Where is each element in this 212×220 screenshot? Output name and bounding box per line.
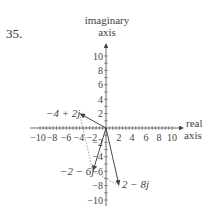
complex-plane-diagram: imaginary axis real axis bbox=[0, 0, 212, 220]
svg-text:4: 4 bbox=[98, 94, 103, 105]
imaginary-axis-label: imaginary bbox=[85, 14, 130, 26]
label-minus2-minus6j: −2 − 6j bbox=[60, 165, 94, 177]
svg-text:−4: −4 bbox=[74, 132, 85, 143]
real-axis-label-2: axis bbox=[184, 129, 202, 141]
svg-text:−8: −8 bbox=[47, 132, 58, 143]
svg-text:8: 8 bbox=[157, 132, 162, 143]
svg-text:−6: −6 bbox=[61, 132, 72, 143]
svg-text:10: 10 bbox=[167, 132, 177, 143]
svg-text:6: 6 bbox=[98, 79, 103, 90]
svg-text:2: 2 bbox=[98, 108, 103, 119]
svg-text:4: 4 bbox=[130, 132, 135, 143]
label-minus4-plus2j: −4 + 2j bbox=[46, 107, 80, 119]
svg-text:−8: −8 bbox=[92, 180, 103, 191]
real-axis-label: real bbox=[186, 117, 202, 129]
label-2-minus8j: 2 − 8j bbox=[122, 178, 149, 190]
svg-text:6: 6 bbox=[144, 132, 149, 143]
svg-text:−10: −10 bbox=[87, 195, 103, 206]
svg-text:8: 8 bbox=[98, 65, 103, 76]
svg-text:2: 2 bbox=[117, 132, 122, 143]
svg-text:−10: −10 bbox=[30, 132, 46, 143]
imaginary-axis-label-2: axis bbox=[98, 26, 116, 38]
svg-text:10: 10 bbox=[93, 51, 103, 62]
